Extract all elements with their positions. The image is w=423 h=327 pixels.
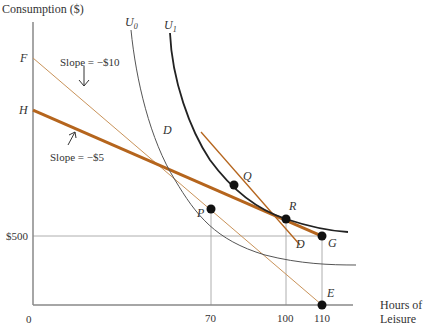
x-tick-110: 110 bbox=[314, 312, 331, 324]
x-axis-label-line1: Hours of bbox=[380, 298, 422, 312]
x-tick-100: 100 bbox=[277, 312, 294, 324]
label-d-bottom: D bbox=[295, 237, 305, 251]
label-p: P bbox=[196, 206, 205, 220]
label-q: Q bbox=[243, 169, 252, 183]
label-u0: U0 bbox=[125, 15, 138, 31]
point-e bbox=[318, 301, 327, 310]
up-right-arrow-icon bbox=[68, 132, 76, 145]
label-f: F bbox=[19, 51, 28, 65]
label-d-top: D bbox=[162, 123, 172, 137]
y-axis-label: Consumption ($) bbox=[2, 2, 84, 16]
x-axis-label-line2: Leisure bbox=[380, 312, 416, 326]
down-arrow-icon bbox=[79, 66, 89, 86]
label-u1: U1 bbox=[164, 18, 177, 34]
point-p bbox=[207, 205, 216, 214]
labor-leisure-diagram: Consumption ($) Hours of Leisure 0 $500 … bbox=[0, 0, 423, 327]
label-h: H bbox=[18, 103, 29, 117]
indifference-curve-u0 bbox=[131, 30, 356, 265]
label-g: G bbox=[328, 236, 337, 250]
point-g bbox=[318, 232, 327, 241]
annotation-slope-hg: Slope = −$5 bbox=[50, 151, 104, 163]
y-tick-500: $500 bbox=[6, 230, 29, 242]
indifference-curve-u1 bbox=[170, 33, 348, 232]
label-r: R bbox=[288, 199, 297, 213]
label-e: E bbox=[326, 286, 335, 300]
budget-line-fe bbox=[33, 58, 322, 305]
point-r bbox=[282, 215, 291, 224]
x-tick-70: 70 bbox=[205, 312, 217, 324]
point-q bbox=[230, 181, 239, 190]
origin-label: 0 bbox=[26, 313, 32, 325]
annotation-slope-fe: Slope = −$10 bbox=[60, 56, 120, 68]
